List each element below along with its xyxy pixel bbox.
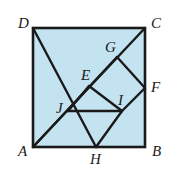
vertex-label-g: G — [105, 40, 116, 55]
vertex-label-c: C — [151, 16, 161, 31]
vertex-label-e: E — [81, 68, 90, 83]
geometry-figure: ABCDEFGHIJ — [0, 0, 179, 172]
vertex-label-d: D — [18, 16, 29, 31]
vertex-label-i: I — [118, 93, 123, 108]
vertex-label-f: F — [151, 80, 160, 95]
vertex-label-j: J — [56, 101, 63, 116]
vertex-label-h: H — [90, 152, 101, 167]
vertex-label-b: B — [152, 144, 161, 159]
vertex-label-a: A — [18, 144, 27, 159]
